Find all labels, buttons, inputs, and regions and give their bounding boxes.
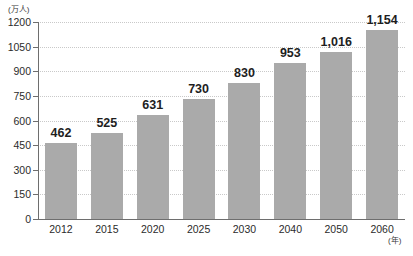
y-axis-tick-label: 450 — [1, 140, 31, 151]
bar-value-label: 730 — [169, 83, 229, 96]
y-axis-tick-label: 750 — [1, 91, 31, 102]
bar — [183, 99, 215, 219]
y-axis-tick-label: 1050 — [1, 41, 31, 52]
x-axis-tick-label: 2060 — [357, 224, 407, 235]
bar — [320, 52, 352, 219]
y-axis-tick-label: 150 — [1, 189, 31, 200]
x-axis-tick-label: 2030 — [219, 224, 269, 235]
x-axis-tick-label: 2025 — [174, 224, 224, 235]
bar-value-label: 525 — [77, 117, 137, 130]
y-axis-tick-label: 300 — [1, 165, 31, 176]
x-axis-tick-label: 2020 — [128, 224, 178, 235]
bar — [45, 143, 77, 219]
x-axis-unit-label: (年) — [388, 234, 401, 245]
bar-chart: (万人) (年) 015030045060075090010501200 462… — [0, 0, 413, 256]
x-axis-line — [38, 219, 405, 220]
y-axis-tick-mark — [33, 219, 39, 220]
x-axis-tick-label: 2012 — [36, 224, 86, 235]
bar-value-label: 631 — [123, 99, 183, 112]
y-axis-tick-label: 900 — [1, 66, 31, 77]
y-axis-tick-label: 1200 — [1, 17, 31, 28]
bar — [91, 133, 123, 219]
bar-value-label: 1,154 — [352, 14, 412, 27]
x-axis-tick-label: 2040 — [265, 224, 315, 235]
y-axis-tick-labels: 015030045060075090010501200 — [0, 0, 31, 256]
x-axis-tick-label: 2050 — [311, 224, 361, 235]
bar-value-label: 830 — [214, 67, 274, 80]
y-axis-tick-label: 600 — [1, 115, 31, 126]
bar — [366, 30, 398, 219]
bar-value-label: 1,016 — [306, 36, 366, 49]
bar — [274, 63, 306, 219]
bar — [228, 83, 260, 219]
bar — [137, 115, 169, 219]
x-axis-tick-label: 2015 — [82, 224, 132, 235]
y-axis-tick-label: 0 — [1, 214, 31, 225]
